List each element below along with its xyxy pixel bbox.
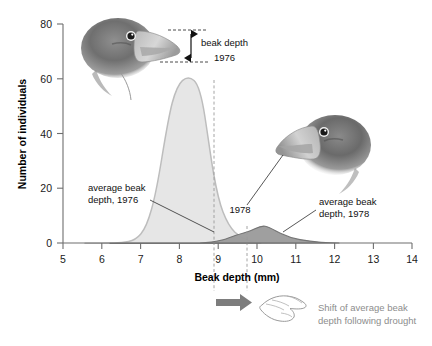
- x-tick-8: 8: [176, 253, 182, 265]
- leader-average-1978: [283, 210, 316, 232]
- beak-depth-1976-label-line2: 1976: [214, 52, 235, 63]
- x-tick-12: 12: [329, 253, 341, 265]
- x-tick-7: 7: [138, 253, 144, 265]
- leader-finch-1978: [247, 155, 283, 205]
- x-tick-13: 13: [368, 253, 380, 265]
- shift-caption-line2: depth following drought: [318, 315, 417, 326]
- series-1976-curve: [85, 78, 261, 243]
- finch-head-1978-illustration: [276, 115, 371, 194]
- pointing-hand-icon: [260, 296, 306, 322]
- x-tick-6: 6: [99, 253, 105, 265]
- average-1976-label-line2: depth, 1976: [88, 194, 138, 205]
- figure-beak-depth-distribution: 80 60 40 20 0 5 6 7 8 9 10 11 12 13 14 B…: [0, 0, 432, 346]
- y-tick-60: 60: [40, 73, 52, 85]
- y-tick-20: 20: [40, 182, 52, 194]
- beak-depth-1976-label-line1: beak depth: [201, 37, 248, 48]
- average-1978-label-line1: average beak: [319, 196, 377, 207]
- y-tick-80: 80: [40, 18, 52, 30]
- axis-y: [57, 24, 63, 243]
- x-tick-10: 10: [251, 253, 263, 265]
- x-tick-9: 9: [215, 253, 221, 265]
- average-1978-label-line2: depth, 1978: [319, 208, 369, 219]
- y-axis-title: Number of individuals: [16, 79, 28, 189]
- x-tick-5: 5: [60, 253, 66, 265]
- year-label-1978: 1978: [229, 204, 250, 215]
- shift-arrow: [216, 294, 252, 311]
- finch-head-1976-illustration: [81, 18, 180, 100]
- chart-canvas: 80 60 40 20 0 5 6 7 8 9 10 11 12 13 14 B…: [0, 0, 432, 346]
- shift-caption-line1: Shift of average beak: [318, 302, 408, 313]
- x-tick-11: 11: [290, 253, 301, 265]
- average-1976-label-line1: average beak: [88, 182, 146, 193]
- y-tick-40: 40: [40, 128, 52, 140]
- x-tick-14: 14: [406, 253, 418, 265]
- x-axis-title: Beak depth (mm): [194, 271, 279, 283]
- y-tick-0: 0: [46, 237, 52, 249]
